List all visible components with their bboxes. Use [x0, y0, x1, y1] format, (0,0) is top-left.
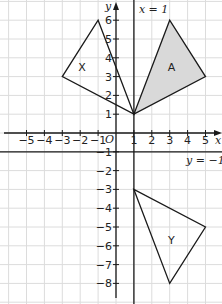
y-tick-label: −4 — [96, 202, 112, 215]
x-tick-label: −3 — [54, 134, 70, 147]
y-tick-label: 3 — [105, 71, 112, 84]
y-tick-label: 5 — [105, 33, 112, 46]
y-tick-label: 2 — [105, 89, 112, 102]
y-tick-label: −6 — [96, 240, 112, 253]
x-tick-label: 1 — [130, 134, 137, 147]
x-tick-label: 2 — [148, 134, 155, 147]
y-tick-label: −1 — [96, 146, 112, 159]
line-label-y-equals-minus-1: y = −1 — [185, 154, 222, 167]
x-tick-label: −5 — [18, 134, 34, 147]
y-tick-label: −2 — [96, 165, 112, 178]
y-tick-label: −5 — [96, 221, 112, 234]
x-tick-label: −4 — [36, 134, 52, 147]
y-tick-label: 1 — [105, 108, 112, 121]
y-axis-arrow-icon — [113, 2, 119, 10]
x-tick-label: 4 — [184, 134, 191, 147]
y-tick-label: −7 — [96, 259, 112, 272]
x-axis-label: x — [215, 134, 222, 147]
shape-label-a: A — [168, 61, 176, 74]
coordinate-grid-diagram: −5−4−3−2−112345654321−1−2−3−4−5−6−7−8 A … — [0, 0, 222, 304]
shape-label-y: Y — [167, 234, 175, 247]
x-tick-label: 5 — [202, 134, 209, 147]
y-tick-label: −8 — [96, 277, 112, 290]
y-tick-label: −3 — [96, 183, 112, 196]
y-tick-label: 6 — [105, 14, 112, 27]
x-tick-label: −2 — [72, 134, 88, 147]
line-label-x-equals-1: x = 1 — [139, 3, 168, 16]
x-tick-label: 3 — [166, 134, 173, 147]
y-axis-label: y — [104, 0, 112, 13]
shape-label-x: X — [78, 61, 86, 74]
y-tick-label: 4 — [105, 52, 112, 65]
origin-label: O — [105, 133, 114, 146]
